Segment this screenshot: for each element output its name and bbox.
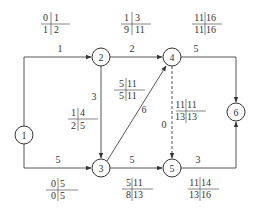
edge-2-3: 3 (92, 66, 102, 158)
svg-text:13: 13 (175, 111, 185, 122)
svg-text:11: 11 (133, 177, 143, 188)
network-diagram: 1 5 3 2 6 5 0 5 3 1 2 3 (0, 0, 258, 214)
edge-3-4-duration: 6 (142, 104, 147, 115)
time-grid-2-3: 1 4 2 5 (68, 107, 98, 131)
svg-text:11: 11 (189, 177, 199, 188)
svg-text:2: 2 (71, 120, 76, 131)
svg-text:1: 1 (71, 107, 76, 118)
edge-4-6: 5 (181, 43, 236, 102)
edge-5-6-duration: 3 (196, 154, 201, 165)
time-grid-4-6: 11 16 11 16 (192, 12, 222, 35)
edge-5-6: 3 (181, 122, 236, 168)
edge-3-5: 5 (110, 154, 162, 168)
node-2: 2 (92, 48, 110, 66)
node-5: 5 (163, 159, 181, 177)
node-4: 4 (163, 48, 181, 66)
edge-2-3-duration: 3 (92, 91, 97, 102)
svg-text:5: 5 (80, 120, 85, 131)
svg-text:13: 13 (189, 189, 199, 200)
svg-text:3: 3 (135, 12, 140, 23)
edge-4-5-dummy: 0 (162, 66, 173, 158)
time-grid-1-2: 0 1 1 2 (41, 12, 70, 35)
svg-text:5: 5 (60, 178, 65, 189)
edge-1-3: 5 (24, 144, 91, 168)
svg-text:16: 16 (201, 189, 211, 200)
svg-text:5: 5 (119, 78, 124, 89)
edge-1-2-duration: 1 (58, 43, 63, 54)
time-grid-5-6: 11 14 13 16 (188, 177, 219, 201)
node-6: 6 (227, 103, 245, 121)
node-3: 3 (92, 159, 110, 177)
edge-4-5-duration: 0 (162, 119, 167, 130)
svg-text:1: 1 (54, 12, 59, 23)
svg-text:16: 16 (206, 12, 216, 23)
svg-text:9: 9 (124, 24, 129, 35)
time-grid-4-5: 11 11 13 13 (175, 99, 206, 123)
time-grid-2-4: 1 3 9 11 (121, 12, 151, 35)
edge-1-3-duration: 5 (56, 154, 61, 165)
svg-text:0: 0 (51, 190, 56, 201)
edge-2-4-duration: 2 (130, 43, 135, 54)
node-5-label: 5 (170, 163, 175, 174)
svg-text:4: 4 (80, 107, 85, 118)
node-2-label: 2 (99, 52, 104, 63)
svg-text:11: 11 (194, 24, 204, 35)
svg-text:1: 1 (43, 24, 48, 35)
node-1-label: 1 (22, 130, 27, 141)
svg-text:11: 11 (135, 24, 145, 35)
node-4-label: 4 (170, 52, 175, 63)
edge-3-5-duration: 5 (130, 154, 135, 165)
time-grid-1-3: 0 5 0 5 (46, 178, 78, 201)
svg-text:0: 0 (51, 178, 56, 189)
svg-text:13: 13 (133, 189, 143, 200)
svg-text:2: 2 (54, 24, 59, 35)
svg-text:11: 11 (127, 78, 137, 89)
svg-text:11: 11 (127, 90, 137, 101)
edge-4-6-duration: 5 (194, 43, 199, 54)
svg-text:16: 16 (206, 24, 216, 35)
node-1: 1 (15, 126, 33, 144)
svg-text:11: 11 (187, 99, 197, 110)
svg-text:5: 5 (126, 177, 131, 188)
time-grid-3-5: 5 11 8 13 (122, 177, 153, 201)
time-grid-3-4: 5 11 5 11 (114, 78, 145, 101)
svg-text:11: 11 (175, 99, 185, 110)
svg-text:11: 11 (194, 12, 204, 23)
node-6-label: 6 (234, 107, 239, 118)
svg-text:14: 14 (201, 177, 211, 188)
edge-2-4: 2 (110, 43, 162, 57)
svg-text:0: 0 (43, 12, 48, 23)
node-3-label: 3 (99, 163, 104, 174)
svg-text:8: 8 (126, 189, 131, 200)
svg-text:1: 1 (124, 12, 129, 23)
svg-text:13: 13 (187, 111, 197, 122)
svg-text:5: 5 (119, 90, 124, 101)
svg-text:5: 5 (60, 190, 65, 201)
